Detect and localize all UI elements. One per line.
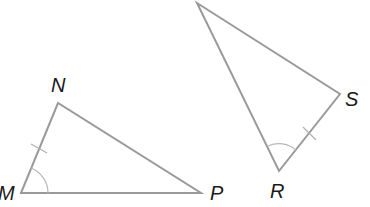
angle-m-arc [31,168,48,193]
triangle-rs [197,3,340,171]
vertex-label-r: R [270,180,284,202]
congruence-diagram: N M P S R [0,0,370,207]
vertex-label-n: N [51,74,66,96]
triangle-mnp [21,103,201,193]
triangle-mnp-outline [21,103,201,193]
vertex-label-m: M [0,182,15,204]
angle-r-arc [268,144,296,150]
vertex-label-s: S [345,88,359,110]
vertex-label-p: P [210,182,224,204]
